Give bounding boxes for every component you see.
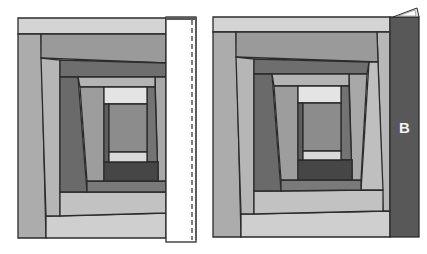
patch-ring3-top bbox=[254, 59, 369, 74]
patch-center-top bbox=[298, 86, 341, 103]
patch-ring2-bottom bbox=[254, 190, 383, 214]
patch-ring4-bottom bbox=[298, 160, 352, 180]
patch-outer-top bbox=[18, 18, 166, 34]
patch-center-top bbox=[104, 87, 147, 104]
patch-ring4-bottom bbox=[104, 162, 158, 181]
patch-outer-top bbox=[213, 17, 390, 32]
patch-center-left bbox=[104, 104, 109, 162]
patch-ring3-bottom bbox=[281, 180, 361, 191]
patch-ring4-top bbox=[78, 77, 155, 87]
strip-b-label: B bbox=[399, 120, 410, 135]
patch-center-square bbox=[109, 104, 147, 152]
log-cabin-diagram bbox=[0, 0, 427, 254]
patch-ring4-top bbox=[272, 74, 349, 86]
patch-ring2-top bbox=[41, 34, 166, 63]
strip-top-edge bbox=[166, 17, 196, 20]
right-panel-strip-b-pressed bbox=[213, 8, 419, 237]
patch-center-bottom bbox=[109, 152, 147, 162]
patch-ring2-top bbox=[236, 32, 378, 62]
patch-outer-bottom bbox=[46, 213, 166, 238]
folded-seam-allowance-inner bbox=[398, 10, 416, 16]
patch-ring3-bottom bbox=[87, 181, 166, 192]
patch-center-left bbox=[298, 103, 303, 160]
patch-ring3-top bbox=[60, 60, 166, 77]
left-panel-strip-sewn bbox=[18, 17, 196, 242]
patch-ring2-bottom bbox=[60, 192, 166, 216]
patch-center-square bbox=[303, 103, 341, 151]
patch-outer-bottom bbox=[241, 211, 390, 237]
patch-center-bottom bbox=[303, 151, 341, 160]
